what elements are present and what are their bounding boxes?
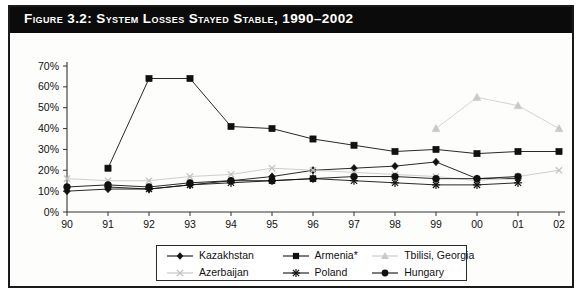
legend-row-2: Azerbaijan Poland Hungary: [157, 264, 466, 281]
x-tick-label: 01: [512, 218, 524, 230]
x-tick-label: 00: [471, 218, 483, 230]
series-armenia: [105, 75, 562, 171]
series-kazakhstan: [64, 158, 522, 195]
legend-label-tbilisi: Tbilisi, Georgia: [404, 250, 474, 261]
x-tick-label: 97: [348, 218, 360, 230]
legend-label-hungary: Hungary: [404, 267, 444, 278]
x-tick-label: 94: [225, 218, 237, 230]
y-tick-label: 0%: [44, 206, 59, 218]
y-tick-label: 30%: [38, 143, 59, 155]
circle-marker-icon: [370, 266, 400, 280]
x-tick-label: 93: [184, 218, 196, 230]
y-tick-label: 10%: [38, 185, 59, 197]
series-tbilisi-georgia: [432, 93, 563, 131]
figure-frame: Figure 3.2: System Losses Stayed Stable,…: [8, 5, 574, 288]
legend-label-kazakhstan: Kazakhstan: [199, 250, 254, 261]
y-tick-label: 50%: [38, 101, 59, 113]
x-marker-icon: [165, 266, 195, 280]
legend-label-armenia: Armenia*: [315, 250, 358, 261]
figure-title: Figure 3.2: System Losses Stayed Stable,…: [24, 11, 353, 26]
legend-item-poland: Poland: [281, 264, 371, 281]
y-tick-label: 70%: [38, 60, 59, 72]
legend-item-hungary: Hungary: [370, 264, 466, 281]
x-tick-label: 91: [102, 218, 114, 230]
triangle-marker-icon: [370, 249, 400, 263]
legend-row-1: Kazakhstan Armenia* Tbilisi, Georgia: [157, 247, 466, 264]
figure-title-bar: Figure 3.2: System Losses Stayed Stable,…: [10, 7, 572, 33]
legend-item-kazakhstan: Kazakhstan: [157, 247, 281, 264]
square-marker-icon: [281, 249, 311, 263]
legend-label-azerbaijan: Azerbaijan: [199, 267, 249, 278]
x-tick-label: 02: [553, 218, 565, 230]
x-tick-label: 96: [307, 218, 319, 230]
legend-label-poland: Poland: [315, 267, 348, 278]
diamond-marker-icon: [165, 249, 195, 263]
x-tick-label: 98: [389, 218, 401, 230]
x-tick-label: 95: [266, 218, 278, 230]
star-marker-icon: [281, 266, 311, 280]
legend-item-armenia: Armenia*: [281, 247, 371, 264]
y-tick-label: 60%: [38, 80, 59, 92]
legend-item-azerbaijan: Azerbaijan: [157, 264, 281, 281]
x-tick-label: 92: [143, 218, 155, 230]
chart-legend: Kazakhstan Armenia* Tbilisi, Georgia Aze…: [156, 245, 467, 281]
x-tick-label: 99: [430, 218, 442, 230]
y-tick-label: 40%: [38, 122, 59, 134]
x-tick-label: 90: [61, 218, 73, 230]
legend-item-tbilisi: Tbilisi, Georgia: [370, 247, 466, 264]
y-tick-label: 20%: [38, 164, 59, 176]
